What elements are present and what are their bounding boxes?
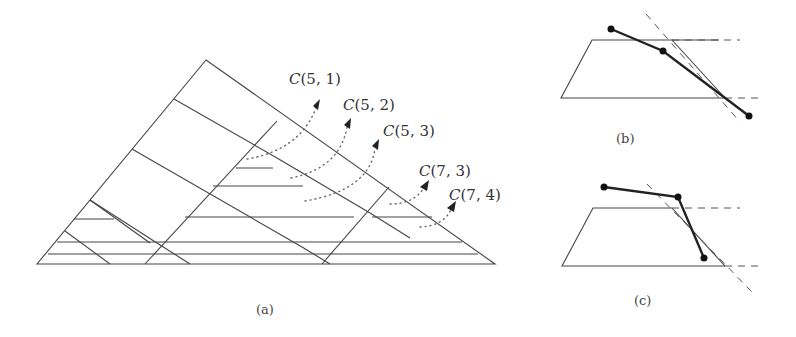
polyline-c	[604, 187, 704, 258]
cell-divider	[174, 99, 277, 158]
trapezoid	[561, 40, 725, 98]
clip-edge	[672, 208, 725, 266]
pointer-c51	[247, 108, 316, 159]
vertex-icon	[675, 194, 682, 201]
arrowhead-icon	[372, 139, 379, 150]
vertex-icon	[601, 184, 608, 191]
strip-divider	[322, 187, 389, 264]
cell-divider	[90, 200, 150, 243]
trapezoid	[562, 208, 725, 266]
pointer-c53	[305, 148, 375, 201]
pointer-c73	[390, 186, 425, 204]
clip-edge	[672, 40, 725, 98]
panel-b	[561, 14, 764, 122]
vertex-icon	[746, 113, 753, 120]
caption-c: (c)	[634, 293, 651, 308]
label-c52: C(5, 2)	[343, 96, 395, 114]
polyline-b	[611, 29, 749, 116]
vertex-icon	[608, 26, 615, 33]
cell-divider	[90, 200, 157, 243]
panel-c	[562, 184, 764, 293]
label-c74: C(7, 4)	[449, 186, 501, 204]
vertex-icon	[660, 48, 667, 55]
figure-canvas: C(5, 1) C(5, 2) C(5, 3) C(7, 3) C(7, 4) …	[0, 0, 796, 337]
cell-divider	[65, 231, 110, 264]
caption-a: (a)	[256, 302, 274, 317]
arrowhead-icon	[313, 99, 320, 110]
label-c51: C(5, 1)	[289, 70, 341, 88]
cell-divider	[302, 247, 330, 264]
pointer-c52	[291, 127, 347, 178]
cell-divider	[132, 149, 302, 247]
vertex-icon	[701, 255, 708, 262]
arrowhead-icon	[420, 180, 429, 191]
caption-b: (b)	[616, 131, 634, 146]
label-c73: C(7, 3)	[419, 162, 471, 180]
clip-line-dashed	[646, 14, 740, 122]
label-c53: C(5, 3)	[383, 122, 435, 140]
